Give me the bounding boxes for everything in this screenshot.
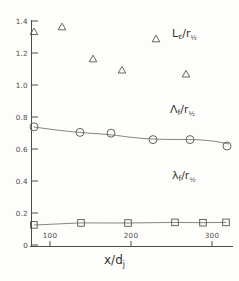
x-axis-title-main: x/d <box>104 253 123 267</box>
y-tick-label: 0.2 <box>16 209 28 218</box>
data-point-triangle <box>89 55 97 62</box>
series-L-epsilon <box>30 23 190 77</box>
y-axis-ticks <box>32 21 39 245</box>
chart-figure: 1.4 1.2 1.0 0.8 0.6 0.4 0.2 0 100 200 30… <box>0 0 239 281</box>
x-axis-ticks <box>50 241 212 247</box>
x-tick-label: 100 <box>43 231 58 240</box>
y-tick-label: 1.0 <box>16 81 28 90</box>
series-label-lambda-f-half: ½ <box>189 176 195 184</box>
series-label-Lambda-f-half: ½ <box>188 110 194 118</box>
x-axis-title-sub: j <box>123 260 125 269</box>
y-tick-label: 0.8 <box>16 113 28 122</box>
y-tick-label: 0.6 <box>16 145 28 154</box>
y-axis-tick-labels: 1.4 1.2 1.0 0.8 0.6 0.4 0.2 0 <box>16 17 28 250</box>
data-point-circle <box>107 129 115 137</box>
series-label-L-epsilon-half: ½ <box>190 34 196 42</box>
x-axis-tick-labels: 100 200 300 <box>43 231 220 240</box>
data-point-circle <box>149 136 157 144</box>
data-point-triangle <box>152 35 160 42</box>
series-label-Lambda-f: Λf/r½ <box>170 104 195 117</box>
data-point-triangle <box>182 70 190 77</box>
chart-canvas: 1.4 1.2 1.0 0.8 0.6 0.4 0.2 0 100 200 30… <box>0 0 239 281</box>
series-Lambda-f-line <box>34 127 229 144</box>
series-label-Lambda-f-main: Λ <box>170 103 178 116</box>
data-point-triangle <box>118 66 126 73</box>
series-Lambda-f <box>30 123 231 150</box>
data-point-triangle <box>58 23 66 30</box>
x-axis-title: x/dj <box>104 254 125 269</box>
series-lambda-f-line <box>34 222 226 225</box>
series-label-L-epsilon: Lε/r½ <box>172 28 197 41</box>
series-label-lambda-f: λf/r½ <box>172 170 196 183</box>
x-tick-label: 200 <box>124 231 139 240</box>
y-tick-label: 1.4 <box>16 17 28 26</box>
y-tick-label: 0 <box>23 241 28 250</box>
y-tick-label: 0.4 <box>16 177 28 186</box>
y-tick-label: 1.2 <box>16 49 28 58</box>
x-tick-label: 300 <box>205 231 220 240</box>
series-lambda-f <box>31 219 230 228</box>
